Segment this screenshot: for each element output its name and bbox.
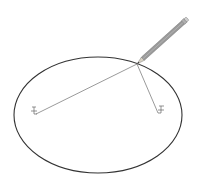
string [36, 64, 158, 114]
ellipse-drawing-diagram [0, 0, 197, 180]
right-focus-pin-icon [158, 106, 164, 113]
pencil-icon [135, 17, 189, 66]
left-focus-pin-icon [31, 107, 37, 114]
ellipse-outline [14, 57, 182, 173]
